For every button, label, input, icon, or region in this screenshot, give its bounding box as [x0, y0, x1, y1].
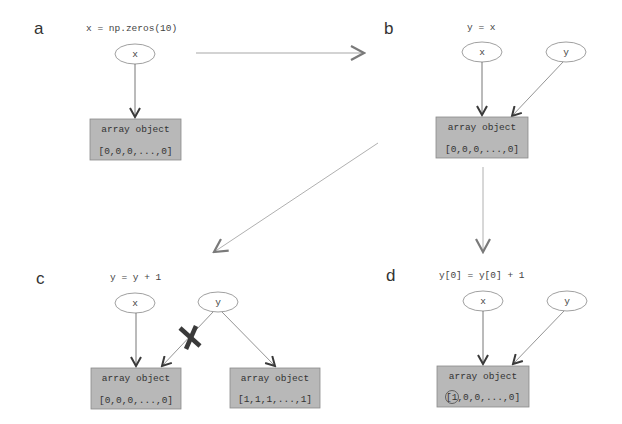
variable-node-x: x [462, 42, 502, 62]
array-values-rest: ,0,0,...,0] [457, 392, 520, 403]
variable-label: x [132, 298, 138, 309]
panel-label-c: c [36, 269, 45, 288]
panel-c: c y = y + 1 x y array object [0,0,0,...,… [36, 269, 320, 409]
array-title: array object [102, 373, 170, 384]
broken-reference-edge-y [162, 312, 213, 366]
code-statement-d: y[0] = y[0] + 1 [439, 270, 525, 281]
panel-label-d: d [386, 266, 395, 285]
array-title: array object [448, 122, 516, 133]
variable-node-y: y [547, 291, 587, 311]
variable-label: x [480, 296, 486, 307]
panel-b: b y = x x y array object [0,0,0,...,0] [384, 19, 586, 158]
array-object-box-original: array object [0,0,0,...,0] [91, 368, 181, 409]
array-values: [0,0,0,...,0] [445, 144, 519, 155]
numpy-reference-diagram: a x = np.zeros(10) x array object [0,0,0… [0, 0, 622, 424]
array-values: [0,0,0,...,0] [98, 146, 172, 157]
code-statement-a: x = np.zeros(10) [86, 23, 177, 34]
panel-label-a: a [34, 19, 44, 38]
array-object-box: array object [0,0,0,...,0] [436, 117, 528, 158]
array-object-box: array object [0,0,0,...,0] [90, 119, 181, 160]
array-values: [1,1,1,...,1] [238, 394, 312, 405]
panel-label-b: b [384, 19, 393, 38]
array-title: array object [449, 371, 517, 382]
transition-arrow-b-to-c [214, 143, 378, 252]
variable-label: y [563, 47, 569, 58]
variable-node-y: y [198, 292, 238, 312]
variable-label: x [479, 47, 485, 58]
panel-d: d y[0] = y[0] + 1 x y array object [1,0,… [386, 266, 587, 407]
code-statement-c: y = y + 1 [110, 272, 162, 283]
code-statement-b: y = x [467, 22, 496, 33]
variable-label: y [564, 296, 570, 307]
diagram-svg: a x = np.zeros(10) x array object [0,0,0… [0, 0, 622, 424]
variable-node-x: x [115, 293, 155, 313]
variable-node-y: y [546, 42, 586, 62]
reference-edge-y [513, 311, 564, 364]
array-values: [0,0,0,...,0] [99, 395, 173, 406]
variable-label: x [132, 49, 138, 60]
panel-a: a x = np.zeros(10) x array object [0,0,0… [34, 19, 181, 160]
variable-node-x: x [463, 291, 503, 311]
variable-node-x: x [115, 44, 155, 64]
array-title: array object [101, 124, 169, 135]
array-object-box: array object [1,0,0,...,0] [437, 366, 529, 407]
variable-label: y [215, 297, 221, 308]
array-title: array object [241, 373, 309, 384]
array-object-box-new: array object [1,1,1,...,1] [230, 368, 320, 408]
reference-edge-y-new [222, 312, 275, 366]
reference-edge-y [512, 62, 563, 116]
